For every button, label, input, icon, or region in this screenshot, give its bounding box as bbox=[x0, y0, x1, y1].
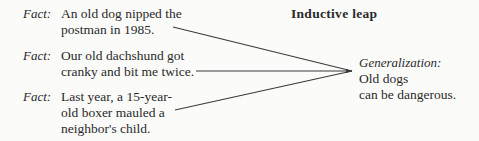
fact-1-connector bbox=[173, 27, 352, 71]
generalization-text-line: Old dogs bbox=[359, 71, 408, 87]
generalization-label: Generalization: bbox=[359, 55, 441, 71]
generalization-text-line: can be dangerous. bbox=[359, 87, 456, 103]
convergence-point-icon bbox=[346, 69, 352, 73]
fact-3-connector bbox=[175, 71, 352, 110]
